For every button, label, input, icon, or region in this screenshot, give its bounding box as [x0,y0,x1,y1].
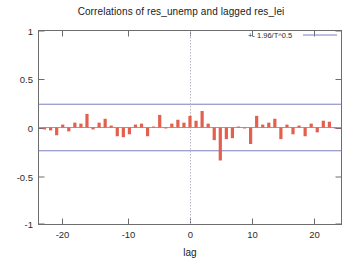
correlation-bar [170,124,173,128]
correlation-bar [85,114,88,128]
correlation-bar [110,126,113,128]
chart-container: Correlations of res_unemp and lagged res… [0,0,362,267]
correlation-bar [328,122,331,128]
correlation-bar [219,128,222,161]
correlation-bar [116,128,119,137]
correlation-bar [73,123,76,128]
y-tick-label-0-5: 0.5 [20,74,33,85]
correlation-bar [122,128,125,138]
correlation-bar [182,123,185,128]
y-tick-label-neg-0-5: -0.5 [17,172,33,183]
correlation-bar [43,128,46,130]
correlation-bar [316,128,319,133]
correlation-bar [255,116,258,128]
correlation-bar [243,128,246,129]
correlation-bar [213,128,216,141]
correlogram-plot: 1 0.5 0 -0.5 -1 -20 -10 0 10 20 lag [0,0,362,267]
correlation-bar [249,128,252,144]
correlation-bar [201,111,204,127]
x-axis-title: lag [183,247,196,258]
correlation-bar [158,115,161,128]
correlation-bar [91,128,94,130]
correlation-bar [322,121,325,128]
correlation-bar [279,128,282,140]
correlation-bar [176,120,179,128]
correlation-bar [67,128,70,132]
correlation-bar [297,126,300,128]
correlation-bar [128,128,131,135]
correlation-bar [285,125,288,128]
correlation-bar [310,124,313,128]
correlation-bar [291,128,294,135]
x-tick-label-neg-10: -10 [122,229,136,240]
legend: +- 1.96/T^0.5 [248,31,337,40]
legend-label: +- 1.96/T^0.5 [248,31,292,40]
x-tick-label-0: 0 [188,229,193,240]
y-tick-label-1: 1 [28,26,33,37]
correlation-bar [49,128,52,131]
correlation-bar [146,128,149,137]
correlation-bar [304,128,307,137]
correlation-bar [61,125,64,128]
x-tick-label-10: 10 [247,229,258,240]
correlation-bar [273,119,276,128]
correlation-bar [104,119,107,128]
correlation-bar [79,124,82,128]
correlation-bar [237,127,240,128]
correlation-bar [207,124,210,128]
correlation-bar [98,123,101,128]
x-tick-label-neg-20: -20 [56,229,70,240]
y-tick-label-0: 0 [28,123,33,134]
correlation-bar [267,123,270,128]
correlation-bar [261,125,264,128]
correlation-bar [194,121,197,128]
correlation-bar [231,128,234,139]
correlation-bar [152,127,155,128]
correlation-bar [134,125,137,128]
correlation-bar [55,128,58,136]
correlation-bar [334,128,337,129]
correlation-bars [43,111,337,160]
correlation-bar [140,124,143,128]
correlation-bar [188,116,191,128]
x-tick-label-20: 20 [309,229,320,240]
correlation-bar [225,128,228,140]
y-tick-label-neg-1: -1 [25,219,33,230]
correlation-bar [164,128,167,129]
